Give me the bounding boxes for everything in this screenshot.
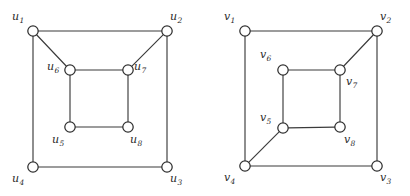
vertex-label-sub-v1: 1 <box>231 16 236 25</box>
vertex-label-sub-u4: 4 <box>19 178 24 187</box>
vertex-label-sub-u5: 5 <box>59 139 64 148</box>
graph-vertex-v3 <box>372 161 382 171</box>
vertex-label-sub-v4: 4 <box>231 177 236 186</box>
vertex-label-v4: v4 <box>224 172 235 183</box>
graph-vertex-u3 <box>162 162 172 172</box>
vertex-label-sub-v8: 8 <box>351 139 356 148</box>
vertex-label-base-v3: v <box>380 171 386 184</box>
graph-vertex-u5 <box>65 122 75 132</box>
graph-figure-canvas <box>0 0 410 196</box>
vertex-label-v6: v6 <box>260 49 271 60</box>
vertex-label-sub-v6: 6 <box>267 54 272 63</box>
vertex-label-sub-u3: 3 <box>177 178 182 187</box>
vertex-label-base-v7: v <box>346 75 352 88</box>
graph-vertex-u2 <box>162 26 172 36</box>
vertex-label-sub-v3: 3 <box>387 177 392 186</box>
vertex-label-u6: u6 <box>47 61 59 72</box>
vertex-label-sub-u6: 6 <box>54 66 59 75</box>
vertex-label-v5: v5 <box>260 112 271 123</box>
graph-u-edges <box>33 31 167 167</box>
graph-vertex-u6 <box>65 65 75 75</box>
graph-vertex-v4 <box>240 161 250 171</box>
vertex-label-u3: u3 <box>170 173 182 184</box>
graph-edge-v8-v5 <box>288 127 335 128</box>
vertex-label-u2: u2 <box>170 11 182 22</box>
vertex-label-sub-v2: 2 <box>387 16 392 25</box>
vertex-label-v7: v7 <box>346 76 357 87</box>
vertex-label-u4: u4 <box>12 173 24 184</box>
vertex-label-u8: u8 <box>130 134 142 145</box>
graph-vertex-v5 <box>278 123 288 133</box>
graph-vertex-v8 <box>335 122 345 132</box>
vertex-label-sub-u7: 7 <box>141 66 146 75</box>
vertex-label-base-v1: v <box>224 10 230 23</box>
graph-edge-v4-v5 <box>249 132 280 163</box>
graph-vertex-v6 <box>278 65 288 75</box>
nodes-layer <box>28 26 382 172</box>
graph-edge-v2-v7 <box>344 35 374 66</box>
vertex-label-base-v6: v <box>260 48 266 61</box>
vertex-label-sub-u1: 1 <box>19 16 24 25</box>
vertex-label-base-v2: v <box>380 10 386 23</box>
vertex-label-v2: v2 <box>380 11 391 22</box>
graph-vertex-u8 <box>123 122 133 132</box>
vertex-label-u1: u1 <box>12 11 24 22</box>
figure-root: u1u2u3u4u5u6u7u8v1v2v3v4v5v6v7v8 <box>0 0 410 196</box>
vertex-label-base-v8: v <box>344 133 350 146</box>
graph-vertex-v2 <box>372 26 382 36</box>
vertex-label-sub-v7: 7 <box>353 81 358 90</box>
vertex-label-u5: u5 <box>52 134 64 145</box>
graph-vertex-u4 <box>28 162 38 172</box>
vertex-label-v3: v3 <box>380 172 391 183</box>
vertex-label-sub-v5: 5 <box>267 117 272 126</box>
vertex-label-sub-u8: 8 <box>137 139 142 148</box>
graph-vertex-v1 <box>240 26 250 36</box>
vertex-label-sub-u2: 2 <box>177 16 182 25</box>
vertex-label-v1: v1 <box>224 11 235 22</box>
vertex-label-base-v5: v <box>260 111 266 124</box>
vertex-label-v8: v8 <box>344 134 355 145</box>
edges-layer <box>33 31 377 167</box>
graph-vertex-v7 <box>335 65 345 75</box>
graph-vertex-u7 <box>123 65 133 75</box>
graph-vertex-u1 <box>28 26 38 36</box>
vertex-label-u7: u7 <box>134 61 146 72</box>
vertex-label-base-v4: v <box>224 171 230 184</box>
